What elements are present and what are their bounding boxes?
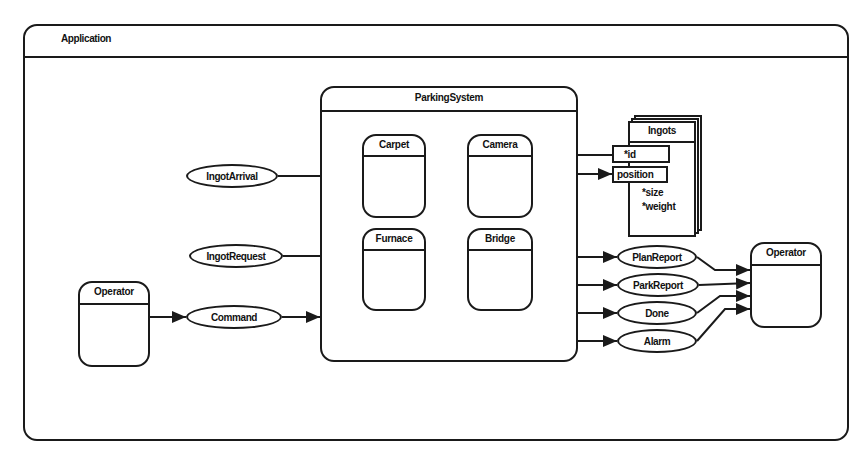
flow-plan-report[interactable]: PlanReport (617, 245, 697, 269)
component-bridge-label: Bridge (469, 230, 531, 251)
application-header-divider (25, 56, 847, 58)
parking-system-title: ParkingSystem (322, 88, 576, 112)
flow-ingot-arrival[interactable]: IngotArrival (186, 164, 278, 188)
flow-alarm[interactable]: Alarm (617, 329, 697, 353)
component-camera[interactable]: Camera (467, 134, 533, 218)
flow-done[interactable]: Done (617, 301, 697, 325)
component-carpet-label: Carpet (364, 136, 424, 157)
application-title: Application (61, 33, 111, 44)
operator-right[interactable]: Operator (750, 242, 822, 328)
operator-right-label: Operator (752, 244, 820, 266)
ingots-attr-weight: *weight (642, 201, 675, 212)
parking-system[interactable]: ParkingSystem (320, 86, 578, 362)
flow-park-report[interactable]: ParkReport (617, 273, 699, 297)
ingots-attr-id[interactable]: *id (612, 145, 670, 163)
operator-left-label: Operator (80, 283, 148, 305)
ingots-title: Ingots (630, 123, 694, 143)
component-camera-label: Camera (469, 136, 531, 157)
component-furnace-label: Furnace (364, 230, 424, 251)
component-furnace[interactable]: Furnace (362, 228, 426, 311)
ingots-attr-position[interactable]: position (612, 166, 668, 183)
component-carpet[interactable]: Carpet (362, 134, 426, 218)
flow-ingot-request[interactable]: IngotRequest (189, 244, 283, 268)
operator-left[interactable]: Operator (78, 281, 150, 367)
flow-command[interactable]: Command (186, 305, 282, 329)
ingots-attr-size: *size (642, 187, 663, 198)
component-bridge[interactable]: Bridge (467, 228, 533, 311)
